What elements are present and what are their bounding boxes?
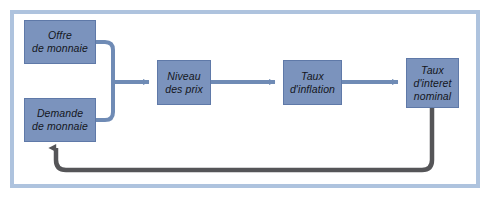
- node-niveau-des-prix[interactable]: Niveau des prix: [157, 60, 211, 105]
- node-label-niveau-des-prix: Niveau des prix: [162, 70, 206, 96]
- node-label-offre-de-monnaie: Offre de monnaie: [29, 29, 91, 55]
- node-label-demande-de-monnaie: Demande de monnaie: [29, 107, 91, 133]
- node-label-taux-d-inflation: Taux d'inflation: [287, 70, 338, 96]
- node-label-taux-d-interet-nominal: Taux d'interet nominal: [411, 64, 455, 103]
- node-demande-de-monnaie[interactable]: Demande de monnaie: [24, 98, 96, 142]
- edge-offre-to-junction: [96, 42, 113, 82]
- node-taux-d-interet-nominal[interactable]: Taux d'interet nominal: [406, 58, 459, 108]
- node-taux-d-inflation[interactable]: Taux d'inflation: [283, 60, 342, 105]
- node-offre-de-monnaie[interactable]: Offre de monnaie: [24, 20, 96, 64]
- diagram-canvas: Offre de monnaie Demande de monnaie Nive…: [0, 0, 492, 199]
- edge-demande-to-junction: [96, 82, 113, 120]
